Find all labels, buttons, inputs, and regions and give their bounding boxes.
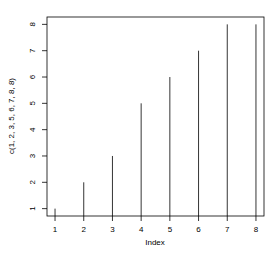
x-tick-label: 2 (82, 225, 87, 234)
y-tick-label: 1 (28, 206, 37, 211)
x-axis: 12345678 (53, 216, 259, 234)
y-axis: 12345678 (28, 22, 47, 211)
y-tick-label: 5 (28, 101, 37, 106)
x-tick-label: 1 (53, 225, 58, 234)
data-lines (55, 24, 256, 216)
chart: 12345678 12345678 Index c(1, 2, 3, 5, 6,… (0, 0, 279, 259)
x-tick-label: 8 (254, 225, 259, 234)
x-tick-label: 7 (225, 225, 230, 234)
y-tick-label: 8 (28, 22, 37, 27)
x-tick-label: 5 (168, 225, 173, 234)
y-tick-label: 6 (28, 74, 37, 79)
x-tick-label: 6 (196, 225, 201, 234)
x-tick-label: 3 (110, 225, 115, 234)
x-axis-label: Index (145, 238, 165, 247)
y-tick-label: 4 (28, 127, 37, 132)
y-axis-label: c(1, 2, 3, 5, 6, 7, 8, 8) (7, 78, 16, 154)
x-tick-label: 4 (139, 225, 144, 234)
y-tick-label: 7 (28, 48, 37, 53)
plot-box (47, 17, 264, 216)
y-tick-label: 3 (28, 153, 37, 158)
y-tick-label: 2 (28, 180, 37, 185)
